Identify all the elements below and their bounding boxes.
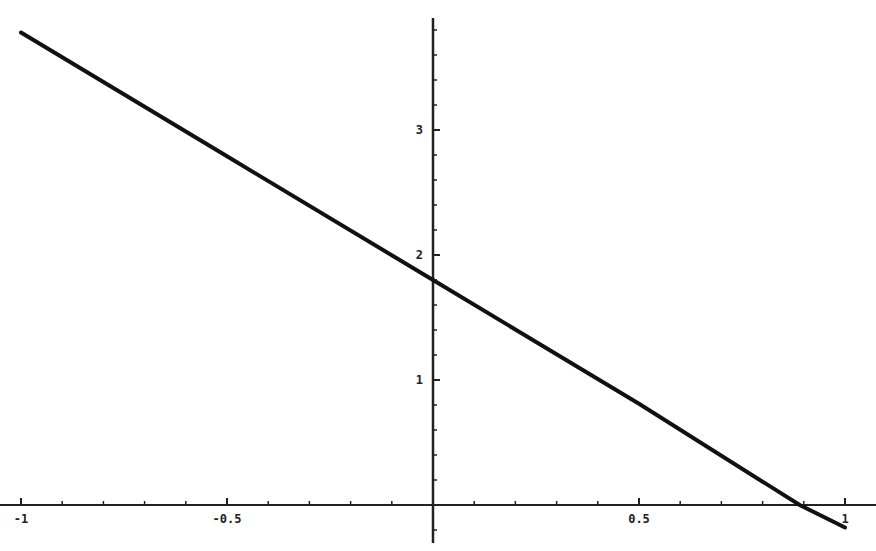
x-tick-label: -0.5 (213, 512, 242, 526)
line-chart: -1-0.50.51123 (0, 0, 876, 551)
y-tick-label: 3 (416, 123, 423, 137)
tick-labels: -1-0.50.51123 (14, 123, 849, 526)
x-tick-label: 0.5 (628, 512, 650, 526)
y-tick-label: 1 (416, 373, 423, 387)
y-tick-label: 2 (416, 248, 423, 262)
x-tick-label: -1 (14, 512, 28, 526)
x-tick-label: 1 (841, 512, 848, 526)
